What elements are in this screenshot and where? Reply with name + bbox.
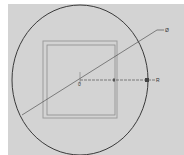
- center-label: 0: [78, 81, 81, 87]
- cad-drawing[interactable]: Ø R 0: [0, 0, 184, 155]
- radius-endpoint-marker: [145, 78, 149, 82]
- radius-label: R: [156, 77, 160, 83]
- mid-marker: [113, 79, 115, 82]
- diameter-label: Ø: [165, 27, 169, 33]
